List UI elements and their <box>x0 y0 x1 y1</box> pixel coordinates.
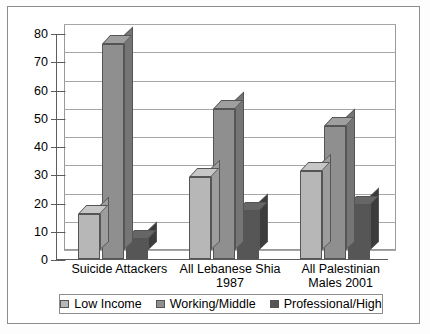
bar <box>189 177 211 259</box>
y-axis-tick-label: 70 <box>24 56 48 69</box>
bar-side-face <box>346 109 355 250</box>
bar-chart-figure: 80706050403020100 Suicide AttackersAll L… <box>0 0 430 334</box>
y-axis-tick-label: 10 <box>24 226 48 239</box>
y-axis-tick-label: 50 <box>24 113 48 126</box>
x-axis-category-label-line: Males 2001 <box>285 276 396 290</box>
y-axis-tick-label: 40 <box>24 141 48 154</box>
gridline <box>64 24 396 25</box>
plot-area <box>56 24 396 260</box>
bar-side-face <box>235 92 244 250</box>
chart-legend: Low IncomeWorking/MiddleProfessional/Hig… <box>59 294 383 314</box>
y-axis-tick-label: 0 <box>24 254 48 267</box>
x-axis-category-label-line: Suicide Attackers <box>64 262 175 276</box>
x-axis-category-labels: Suicide AttackersAll Lebanese Shia1987Al… <box>56 262 401 296</box>
bar <box>300 171 322 259</box>
x-axis-line <box>56 259 388 260</box>
x-axis-category-label: All Lebanese Shia1987 <box>175 262 286 290</box>
legend-item: Working/Middle <box>156 298 256 311</box>
x-axis-category-label-line: All Lebanese Shia <box>175 262 286 276</box>
y-axis-tick-label: 20 <box>24 198 48 211</box>
y-axis-tick-label: 60 <box>24 85 48 98</box>
bar <box>78 214 100 259</box>
legend-swatch-icon <box>60 300 69 308</box>
x-axis-category-label-line: All Palestinian <box>285 262 396 276</box>
bar-front-face <box>189 177 211 259</box>
legend-swatch-icon <box>156 300 165 308</box>
bar-front-face <box>300 171 322 259</box>
x-axis-category-label: All PalestinianMales 2001 <box>285 262 396 290</box>
legend-label: Low Income <box>74 298 141 311</box>
y-axis-tick-label: 30 <box>24 169 48 182</box>
x-axis-category-label-line: 1987 <box>175 276 286 290</box>
legend-label: Professional/High <box>284 298 382 311</box>
legend-swatch-icon <box>270 300 279 308</box>
legend-label: Working/Middle <box>170 298 256 311</box>
legend-item: Professional/High <box>270 298 382 311</box>
x-axis-category-label: Suicide Attackers <box>64 262 175 276</box>
bar-front-face <box>78 214 100 259</box>
bar-side-face <box>124 27 133 250</box>
legend-item: Low Income <box>60 298 141 311</box>
y-axis-tick-label: 80 <box>24 28 48 41</box>
y-axis-tick-labels: 80706050403020100 <box>22 24 48 260</box>
